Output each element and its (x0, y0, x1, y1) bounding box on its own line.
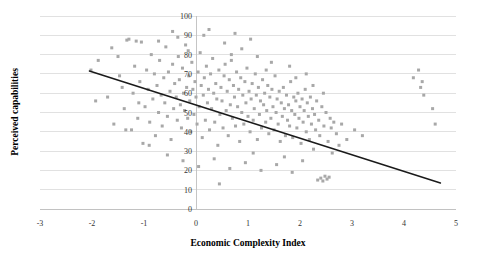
data-point (291, 171, 294, 174)
data-point (136, 117, 139, 120)
data-point (150, 53, 153, 56)
data-point (137, 101, 140, 104)
data-point (234, 32, 237, 35)
data-point (248, 90, 251, 93)
data-point (157, 40, 160, 43)
data-point (140, 41, 143, 44)
data-point (297, 117, 300, 120)
data-point (295, 126, 298, 129)
data-point (121, 86, 124, 89)
data-point (286, 119, 289, 122)
data-point (313, 113, 316, 116)
data-points (89, 28, 436, 185)
x-tick-label: 2 (298, 219, 302, 228)
data-point (265, 109, 268, 112)
x-tick-label: 4 (402, 219, 406, 228)
data-point (294, 99, 297, 102)
data-point (190, 61, 193, 64)
data-point (266, 84, 269, 87)
data-point (232, 84, 235, 87)
data-point (202, 34, 205, 37)
data-point (283, 155, 286, 158)
x-tick-label: 0 (194, 219, 198, 228)
data-point (307, 115, 310, 118)
data-point (199, 51, 202, 54)
data-point (301, 159, 304, 162)
data-point (203, 76, 206, 79)
data-point (213, 157, 216, 160)
data-point (218, 182, 221, 185)
data-point (290, 109, 293, 112)
data-point (234, 125, 237, 128)
data-point (328, 176, 331, 179)
data-point (182, 159, 185, 162)
data-point (275, 163, 278, 166)
y-tick-label: 70 (184, 70, 192, 79)
data-point (303, 109, 306, 112)
y-axis-title: Perceived capabilities (10, 68, 20, 156)
data-point (325, 111, 328, 114)
data-point (236, 105, 239, 108)
scatter-chart: 0102030405060708090100 -3-2-1012345 Econ… (0, 0, 481, 254)
data-point (277, 123, 280, 126)
data-point (135, 40, 138, 43)
data-point (195, 96, 198, 99)
data-point (283, 107, 286, 110)
data-point (238, 140, 241, 143)
data-point (257, 86, 260, 89)
data-point (419, 86, 422, 89)
data-point (167, 70, 170, 73)
data-point (202, 94, 205, 97)
data-point (245, 67, 248, 70)
data-point (240, 47, 243, 50)
data-point (171, 63, 174, 66)
data-point (154, 134, 157, 137)
data-point (305, 72, 308, 75)
data-point (361, 134, 364, 137)
data-point (327, 140, 330, 143)
data-point (259, 99, 262, 102)
data-point (271, 105, 274, 108)
data-point (213, 121, 216, 124)
data-point (288, 125, 291, 128)
data-point (192, 113, 195, 116)
data-point (223, 74, 226, 77)
y-tick-label: 50 (184, 109, 192, 118)
data-point (255, 94, 258, 97)
data-point (421, 80, 424, 83)
data-point (184, 43, 187, 46)
data-point (332, 121, 335, 124)
data-point (204, 119, 207, 122)
data-point (285, 94, 288, 97)
data-point (230, 53, 233, 56)
y-tick-label: 100 (180, 12, 192, 21)
data-point (412, 76, 415, 79)
data-point (282, 86, 285, 89)
data-point (171, 30, 174, 33)
data-point (212, 92, 215, 95)
data-point (177, 55, 180, 58)
data-point (230, 59, 233, 62)
data-point (94, 99, 97, 102)
data-point (309, 96, 312, 99)
trend-line (89, 71, 440, 183)
data-point (322, 92, 325, 95)
data-point (254, 72, 257, 75)
data-point (301, 97, 304, 100)
data-point (280, 101, 283, 104)
data-point (225, 109, 228, 112)
y-tick-label: 10 (184, 186, 192, 195)
data-point (214, 82, 217, 85)
y-tick-label: 0 (188, 205, 192, 214)
data-point (148, 121, 151, 124)
data-point (252, 152, 255, 155)
data-point (226, 90, 229, 93)
data-point (244, 161, 247, 164)
data-point (133, 65, 136, 68)
data-point (215, 97, 218, 100)
data-point (289, 80, 292, 83)
data-point (269, 117, 272, 120)
data-point (256, 138, 259, 141)
data-point (123, 107, 126, 110)
data-point (251, 82, 254, 85)
